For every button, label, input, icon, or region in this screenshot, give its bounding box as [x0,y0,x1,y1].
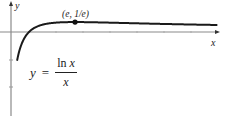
max-point-label: (e, 1/e) [62,10,89,20]
formula-ln: ln [57,56,69,70]
curve-ln-x-over-x [17,22,216,60]
formula-num-var: x [69,56,74,70]
max-point-marker [72,19,77,24]
formula-denominator: x [63,75,68,90]
x-axis-arrow-icon [215,30,220,34]
formula-equals: = [42,65,49,81]
formula-fraction: ln x x [55,56,77,90]
function-label: y = ln x x [30,56,77,90]
formula-lhs: y [30,65,36,81]
y-axis-arrow-icon [9,1,13,6]
y-axis-label: y [15,1,19,11]
x-axis-label: x [211,38,215,48]
fraction-bar [55,72,77,73]
formula-numerator: ln x [55,56,77,71]
